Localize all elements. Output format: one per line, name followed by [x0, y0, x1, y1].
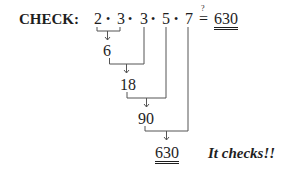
bracket-2	[110, 27, 145, 64]
bracket-3	[127, 27, 166, 98]
bracket-1	[97, 27, 120, 31]
connector-lines	[0, 0, 289, 174]
